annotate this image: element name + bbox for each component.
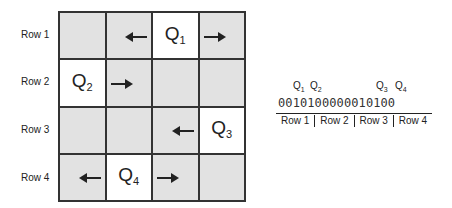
cell-r3c1: [59, 107, 106, 154]
row-label-4: Row 4: [21, 172, 49, 183]
cell-r2c2: [106, 59, 153, 106]
queen-markers: Q1 Q2 Q3 Q4: [276, 80, 452, 96]
queen-4: Q4: [118, 165, 139, 188]
arrow-right-icon: [111, 83, 131, 85]
marker-q4: Q4: [395, 80, 407, 93]
cell-r4c4: [199, 154, 246, 201]
arrow-left-icon: [81, 177, 101, 179]
cell-r1c2: [106, 12, 153, 59]
marker-q1: Q1: [293, 80, 305, 93]
chessboard-grid: Q1 Q2 Q3 Q4: [58, 11, 246, 202]
cell-r4c2: Q4: [106, 154, 153, 201]
segment-row-1: Row 1: [276, 115, 314, 127]
cell-r1c3: Q1: [152, 12, 199, 59]
marker-q3: Q3: [376, 80, 388, 93]
queen-2: Q2: [72, 70, 93, 93]
row-label-2: Row 2: [21, 76, 49, 87]
cell-r2c4: [199, 59, 246, 106]
cell-r3c2: [106, 107, 153, 154]
row-label-3: Row 3: [21, 124, 49, 135]
binary-encoding: Q1 Q2 Q3 Q4 0010100000010100 Row 1 Row 2…: [276, 80, 452, 127]
bit-string: 0010100000010100: [276, 96, 452, 110]
arrow-left-icon: [174, 130, 194, 132]
segment-row-3: Row 3: [354, 115, 393, 127]
divider-line: [276, 113, 432, 114]
cell-r3c4: Q3: [199, 107, 246, 154]
row-label-1: Row 1: [21, 29, 49, 40]
cell-r4c1: [59, 154, 106, 201]
cell-r2c1: Q2: [59, 59, 106, 106]
arrow-right-icon: [157, 177, 177, 179]
cell-r1c4: [199, 12, 246, 59]
cell-r3c3: [152, 107, 199, 154]
queen-1: Q1: [165, 23, 186, 46]
arrow-left-icon: [127, 36, 147, 38]
cell-r1c1: [59, 12, 106, 59]
cell-r2c3: [152, 59, 199, 106]
cell-r4c3: [152, 154, 199, 201]
marker-q2: Q2: [310, 80, 322, 93]
segment-row-4: Row 4: [393, 115, 432, 127]
arrow-right-icon: [204, 36, 224, 38]
row-segments: Row 1 Row 2 Row 3 Row 4: [276, 114, 432, 127]
segment-row-2: Row 2: [314, 115, 353, 127]
queen-3: Q3: [211, 117, 232, 140]
